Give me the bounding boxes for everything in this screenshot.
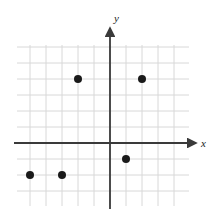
data-point — [138, 75, 146, 83]
data-point — [74, 75, 82, 83]
coordinate-plane-figure: x y — [0, 0, 212, 221]
data-point — [122, 155, 130, 163]
x-axis-label: x — [200, 137, 206, 149]
data-point — [58, 171, 66, 179]
data-point — [26, 171, 34, 179]
scatter-plot-svg: x y — [0, 0, 212, 221]
y-axis-label: y — [113, 12, 119, 24]
